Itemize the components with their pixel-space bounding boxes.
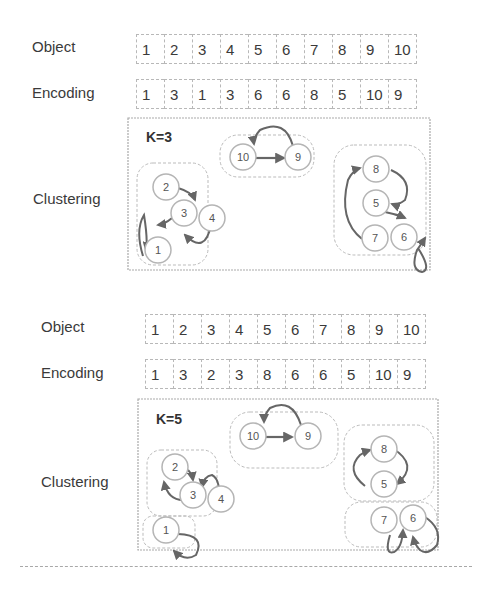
- node: 8: [371, 436, 397, 462]
- svg-text:4: 4: [218, 493, 224, 505]
- svg-text:5: 5: [381, 478, 387, 490]
- node: 2: [162, 454, 188, 480]
- svg-text:3: 3: [190, 489, 196, 501]
- node: 3: [180, 482, 206, 508]
- node: 7: [371, 507, 397, 533]
- node: 10: [240, 423, 266, 449]
- node: 9: [295, 423, 321, 449]
- svg-text:2: 2: [172, 461, 178, 473]
- svg-text:9: 9: [305, 430, 311, 442]
- k-label: K=5: [156, 411, 182, 427]
- clustering-graph-2: K=5 2 3 4 1 10 9 8 5 7 6: [0, 0, 491, 599]
- svg-text:1: 1: [163, 524, 169, 536]
- node: 4: [208, 486, 234, 512]
- bottom-divider: [20, 566, 472, 567]
- svg-text:7: 7: [381, 514, 387, 526]
- node: 5: [371, 471, 397, 497]
- svg-text:8: 8: [381, 443, 387, 455]
- svg-text:10: 10: [247, 430, 259, 442]
- svg-text:6: 6: [410, 512, 416, 524]
- node: 1: [153, 517, 179, 543]
- node: 6: [400, 505, 426, 531]
